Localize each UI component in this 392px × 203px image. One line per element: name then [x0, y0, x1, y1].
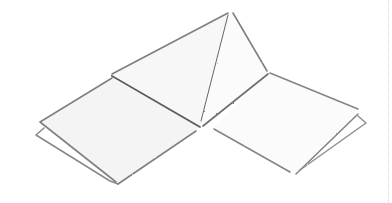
- folded-paper-sketch: [0, 0, 392, 203]
- scan-edge-dots: [388, 0, 389, 203]
